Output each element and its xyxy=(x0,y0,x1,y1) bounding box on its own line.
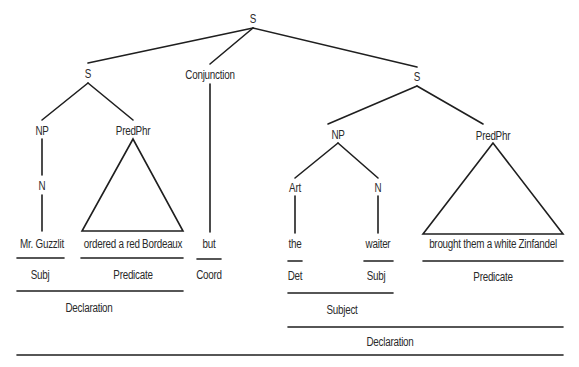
node-left-n: N xyxy=(39,180,46,192)
syntax-tree-diagram: S S Conjunction S NP PredPhr N NP PredPh… xyxy=(0,0,579,367)
node-left-s: S xyxy=(85,68,91,80)
function-predicate-right: Predicate xyxy=(473,271,512,283)
word-waiter: waiter xyxy=(366,238,391,250)
function-declaration-right: Declaration xyxy=(366,336,413,348)
node-left-predphr: PredPhr xyxy=(116,125,150,137)
function-declaration-left: Declaration xyxy=(65,302,112,314)
function-coord: Coord xyxy=(196,269,222,281)
node-right-s: S xyxy=(414,71,420,83)
function-predicate-left: Predicate xyxy=(113,269,152,281)
edge-left-s-to-np xyxy=(42,83,88,120)
node-right-predphr: PredPhr xyxy=(476,130,510,142)
edge-root-to-right-s xyxy=(253,28,417,67)
edge-root-to-conjunction xyxy=(210,28,253,64)
word-ordered-a-red-bordeaux: ordered a red Bordeaux xyxy=(84,238,183,250)
edge-right-np-to-n xyxy=(338,143,378,178)
node-left-np: NP xyxy=(35,125,48,137)
function-det: Det xyxy=(288,270,303,282)
edge-right-s-to-predphr xyxy=(417,86,483,124)
right-predphr-triangle xyxy=(423,143,563,234)
node-conjunction: Conjunction xyxy=(185,69,234,81)
edge-right-np-to-art xyxy=(295,143,338,178)
edge-right-s-to-np xyxy=(328,86,417,124)
word-but: but xyxy=(203,238,216,250)
node-right-np: NP xyxy=(331,129,344,141)
word-mr-guzzlit: Mr. Guzzlit xyxy=(20,238,64,250)
function-subj-left: Subj xyxy=(31,269,50,281)
node-root-s: S xyxy=(250,13,256,25)
node-right-art: Art xyxy=(289,182,301,194)
left-predphr-triangle xyxy=(82,139,183,231)
function-subject-right: Subject xyxy=(326,304,357,316)
function-subj-right: Subj xyxy=(367,270,386,282)
word-brought-them-a-white-zinfandel: brought them a white Zinfandel xyxy=(429,238,557,250)
edge-root-to-left-s xyxy=(88,28,253,63)
edge-left-s-to-predphr xyxy=(88,83,133,120)
word-the: the xyxy=(289,238,302,250)
node-right-n: N xyxy=(375,182,382,194)
